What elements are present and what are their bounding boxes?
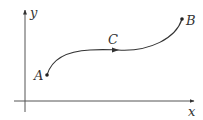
curve-c-label: C (108, 32, 118, 47)
curve-c (47, 19, 182, 75)
point-b-label: B (185, 13, 196, 28)
curve-diagram: y x A B C (0, 0, 203, 120)
y-axis-label: y (29, 5, 38, 20)
x-axis-label: x (188, 104, 196, 119)
point-b (180, 17, 184, 21)
point-a (45, 73, 49, 77)
curve-direction-arrow-icon (112, 48, 119, 53)
point-a-label: A (33, 68, 43, 83)
